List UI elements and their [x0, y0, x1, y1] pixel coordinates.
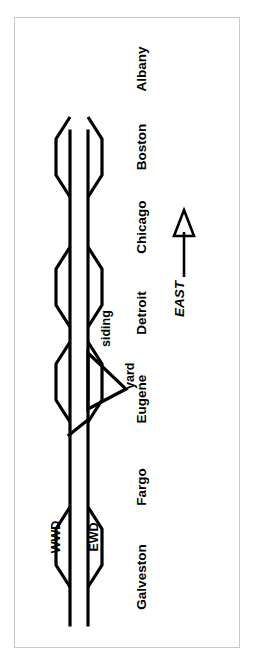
label-wwd: WWD	[49, 521, 63, 554]
ewd-siding-albany	[88, 117, 102, 197]
station-label-albany: Albany	[134, 46, 149, 92]
east-direction-arrow	[174, 210, 194, 277]
crossover-line	[69, 419, 89, 435]
station-label-galveston: Galveston	[134, 544, 149, 609]
crossover-eugene	[69, 419, 89, 435]
station-label-detroit: Detroit	[134, 291, 149, 335]
wwd-siding-eugene	[56, 342, 70, 422]
wwd-siding-chicago	[56, 247, 70, 327]
station-label-boston: Boston	[134, 124, 149, 171]
station-label-fargo: Fargo	[134, 468, 149, 506]
siding-group-albany	[56, 117, 102, 197]
station-label-eugene: Eugene	[134, 374, 149, 423]
siding-group-chicago	[56, 247, 102, 327]
label-ewd: EWD	[87, 522, 101, 551]
yard-outline	[88, 353, 126, 409]
station-labels: Galveston Fargo Eugene Detroit Chicago B…	[134, 46, 149, 610]
label-east: EAST	[172, 279, 187, 317]
figure-caption: Fig 15-21 (above) Track arrangement for …	[268, 17, 273, 648]
station-label-chicago: Chicago	[134, 200, 149, 253]
yard-wedge	[88, 353, 126, 409]
figure-root: WWD EWD siding yard EAST Galveston Fargo…	[0, 0, 273, 661]
track-diagram: WWD EWD siding yard EAST Galveston Fargo…	[14, 17, 240, 648]
siding-group-eugene	[56, 342, 102, 422]
main-tracks	[70, 131, 88, 625]
label-siding: siding	[99, 310, 113, 347]
wwd-siding-albany	[56, 117, 70, 197]
